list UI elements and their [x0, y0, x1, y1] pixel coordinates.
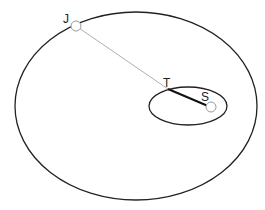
label-s: S — [201, 90, 209, 104]
label-j: J — [63, 12, 69, 26]
j-body — [71, 21, 81, 31]
j-to-t-line — [76, 26, 168, 89]
label-t: T — [163, 76, 171, 90]
orbit-diagram: J T S — [0, 0, 265, 210]
large-orbit — [15, 12, 257, 200]
